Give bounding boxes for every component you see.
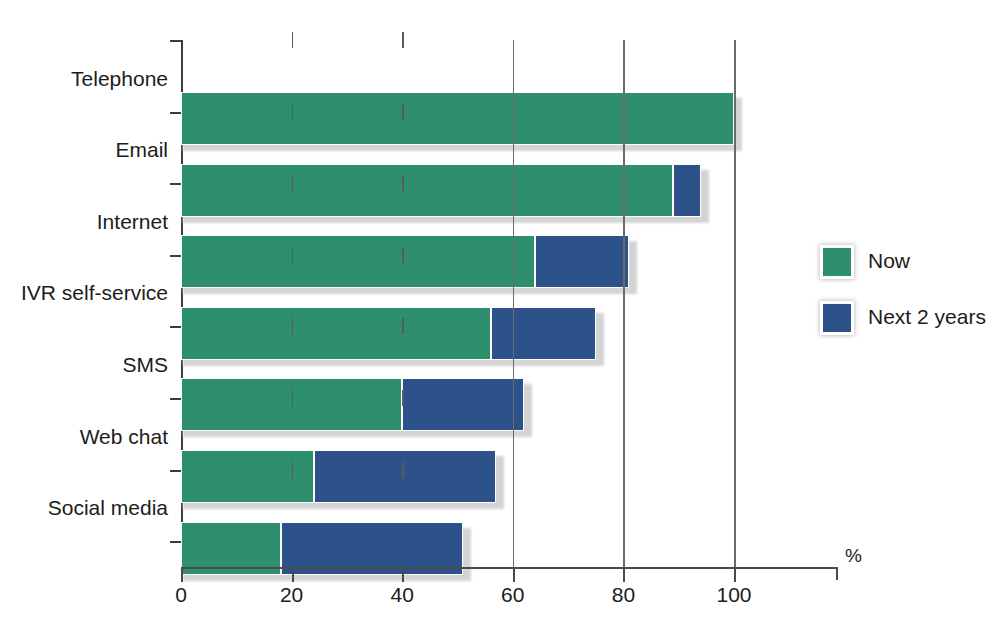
x-axis-tick-label: 100	[716, 583, 751, 607]
gridline-segment	[292, 390, 294, 406]
category-label-internet: Internet	[97, 210, 168, 234]
gridline-80	[623, 40, 625, 567]
gridline-100	[734, 40, 736, 567]
gridline-60	[513, 40, 515, 567]
x-axis-tick	[292, 569, 294, 582]
gridline-segment	[402, 32, 404, 48]
gridline-segment	[292, 32, 294, 48]
bar-segment-next-2-years[interactable]	[314, 450, 496, 503]
x-axis-tick-label: 60	[501, 583, 524, 607]
gridline-segment	[402, 104, 404, 120]
bar-segment-now[interactable]	[181, 235, 535, 288]
x-axis-line	[181, 567, 838, 569]
bar-row[interactable]	[181, 450, 496, 503]
bar-segment-now[interactable]	[181, 307, 491, 360]
bar-chart: TelephoneEmailInternetIVR self-serviceSM…	[0, 0, 994, 634]
x-axis-tick	[623, 569, 625, 582]
gridline-segment	[292, 318, 294, 334]
x-axis-tick	[734, 569, 736, 582]
x-axis-tick-label: 0	[175, 583, 187, 607]
x-axis-tick	[181, 569, 183, 582]
gridline-segment	[292, 104, 294, 120]
gridline-segment	[292, 462, 294, 478]
x-axis-tick	[513, 569, 515, 582]
bar-segment-now[interactable]	[181, 164, 673, 217]
x-axis-tick-label: 20	[280, 583, 303, 607]
legend-swatch-icon	[820, 245, 854, 279]
bar-segment-next-2-years[interactable]	[535, 235, 629, 288]
category-label-sms: SMS	[122, 353, 168, 377]
bar-row[interactable]	[181, 92, 734, 145]
plot-area	[181, 40, 838, 567]
legend-label: Next 2 years	[868, 305, 986, 329]
bar-segment-now[interactable]	[181, 92, 734, 145]
bar-row[interactable]	[181, 235, 629, 288]
bar-segment-next-2-years[interactable]	[673, 164, 701, 217]
gridline-segment	[292, 175, 294, 191]
bar-segment-next-2-years[interactable]	[402, 378, 524, 431]
gridline-segment	[402, 318, 404, 334]
x-axis-tick-label: 40	[391, 583, 414, 607]
legend-label: Now	[868, 249, 910, 273]
y-axis-category-labels: TelephoneEmailInternetIVR self-serviceSM…	[0, 0, 168, 634]
gridline-segment	[402, 175, 404, 191]
bar-row[interactable]	[181, 307, 596, 360]
bar-segment-next-2-years[interactable]	[491, 307, 596, 360]
gridline-segment	[292, 247, 294, 263]
category-label-telephone: Telephone	[71, 67, 168, 91]
gridline-segment	[402, 247, 404, 263]
category-label-email: Email	[115, 138, 168, 162]
bar-row[interactable]	[181, 378, 524, 431]
gridline-segment	[402, 462, 404, 478]
gridline-segment	[402, 390, 404, 406]
x-axis-endcap	[836, 567, 838, 580]
category-label-social-media: Social media	[48, 496, 168, 520]
x-axis-tick	[402, 569, 404, 582]
x-axis-unit-label: %	[845, 545, 862, 567]
x-axis-tick-label: 80	[612, 583, 635, 607]
legend-swatch-icon	[820, 301, 854, 335]
category-label-web-chat: Web chat	[80, 425, 168, 449]
bar-segment-now[interactable]	[181, 450, 314, 503]
category-label-ivr-self-service: IVR self-service	[21, 281, 168, 305]
